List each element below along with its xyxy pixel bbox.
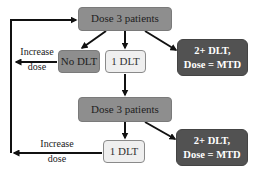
increase-label-line1: Increase (14, 45, 60, 60)
dose-3-patients-box-1: Dose 3 patients (78, 7, 172, 31)
increase-dose-label-1: Increase dose (14, 45, 60, 74)
mtd-box-1: 2+ DLT, Dose = MTD (177, 39, 248, 76)
one-dlt-label: 1 DLT (111, 55, 140, 69)
one-dlt-box-1: 1 DLT (105, 50, 146, 73)
dose-box-label: Dose 3 patients (91, 12, 159, 26)
dose-box-label: Dose 3 patients (91, 103, 159, 117)
mtd-box-2: 2+ DLT, Dose = MTD (176, 129, 248, 166)
dose-3-patients-box-2: Dose 3 patients (78, 97, 172, 122)
increase-label-line2: dose (14, 60, 60, 75)
increase-dose-label-2: Increase dose (34, 137, 80, 166)
no-dlt-box: No DLT (58, 50, 100, 73)
mtd-line2: Dose = MTD (184, 58, 241, 71)
increase-label-line1: Increase (34, 137, 80, 152)
mtd-line1: 2+ DLT, (194, 134, 230, 147)
mtd-line1: 2+ DLT, (194, 44, 230, 57)
no-dlt-label: No DLT (61, 55, 98, 69)
one-dlt-box-2: 1 DLT (103, 140, 145, 163)
increase-label-line2: dose (34, 152, 80, 167)
one-dlt-label: 1 DLT (110, 145, 139, 159)
loop-back-arrow (11, 20, 76, 153)
mtd-line2: Dose = MTD (183, 148, 240, 161)
